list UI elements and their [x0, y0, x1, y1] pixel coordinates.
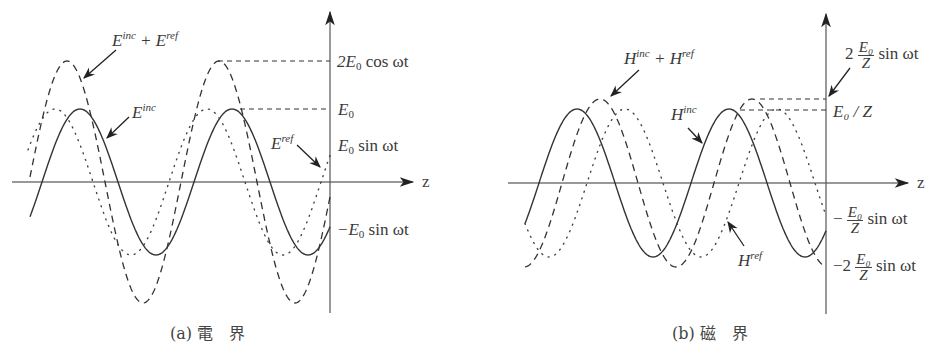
tick-2-e0-over-z-sin: 2 E₀Z sin ωt [845, 40, 918, 71]
arrow-h-inc [688, 128, 702, 143]
tick-neg-e0-sin: −E0 sin ωt [337, 221, 409, 240]
tick-neg2-e0-over-z-sin: −2 E₀Z sin ωt [833, 252, 916, 283]
label-e-sum: Einc + Eref [112, 30, 178, 49]
panel-a-z-label: z [422, 172, 430, 192]
tick-2e0-cos: 2E0 cos ωt [337, 53, 408, 72]
arrow-e-inc [107, 117, 129, 138]
tick-neg-e0-over-z-sin: − E₀Z sin ωt [833, 205, 908, 236]
label-e-inc: Einc [132, 102, 156, 121]
arrow-e-ref [297, 145, 320, 167]
arrow-e-sum [84, 50, 116, 78]
label-h-ref: Href [738, 250, 762, 269]
tick-e0-sin: E0 sin ωt [338, 137, 398, 156]
panel-b-caption: (b) 磁 界 [672, 320, 748, 344]
arrow-2e0z [829, 68, 850, 96]
panel-b-z-label: z [917, 173, 925, 193]
tick-e0: E0 [338, 101, 354, 120]
panel-a-caption: (a) 電 界 [170, 320, 245, 344]
tick-e0-over-z: E₀ / Z [833, 103, 872, 120]
arrow-h-sum [611, 70, 639, 96]
label-h-inc: Hinc [671, 104, 697, 123]
label-h-sum: Hinc + Href [624, 48, 694, 67]
label-e-ref: Eref [271, 133, 293, 152]
diagram-canvas [0, 0, 950, 364]
arrow-h-ref [728, 222, 744, 246]
